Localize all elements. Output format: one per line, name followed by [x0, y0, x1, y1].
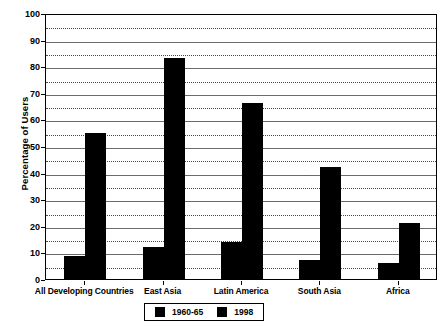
y-tick-mark	[41, 14, 45, 15]
bar	[221, 242, 242, 279]
y-tick-mark	[41, 253, 45, 254]
legend-swatch-icon	[217, 307, 227, 317]
x-axis-category-label: South Asia	[298, 286, 341, 296]
gridline-minor	[46, 55, 436, 56]
gridline-major	[46, 95, 436, 96]
gridline-minor	[46, 108, 436, 109]
x-axis-category-label: Latin America	[214, 286, 269, 296]
legend-entry: 1998	[217, 307, 253, 317]
legend-label: 1960-65	[172, 307, 203, 317]
y-tick-label: 20	[0, 222, 40, 232]
bar	[143, 247, 164, 279]
scan-artifact: .	[305, 167, 309, 171]
y-tick-mark	[41, 94, 45, 95]
bar	[378, 263, 399, 279]
y-tick-mark	[41, 120, 45, 121]
x-axis-category-label: Africa	[386, 286, 410, 296]
y-tick-label: 70	[0, 89, 40, 99]
y-tick-mark	[41, 41, 45, 42]
gridline-major	[46, 42, 436, 43]
legend-swatch-icon	[155, 307, 165, 317]
x-axis-category-label: All Developing Countries	[35, 286, 134, 296]
y-tick-mark	[41, 200, 45, 201]
y-tick-label: 10	[0, 248, 40, 258]
x-axis: All Developing CountriesEast AsiaLatin A…	[45, 281, 437, 299]
plot-area	[45, 14, 437, 280]
y-tick-mark	[41, 227, 45, 228]
gridline-minor	[46, 28, 436, 29]
gridline-minor	[46, 82, 436, 83]
bar	[242, 103, 263, 279]
y-tick-label: 100	[0, 9, 40, 19]
y-tick-mark	[41, 147, 45, 148]
y-tick-label: 40	[0, 169, 40, 179]
x-tick-mark	[319, 281, 320, 285]
bar	[164, 58, 185, 279]
y-tick-label: 30	[0, 195, 40, 205]
gridline-major	[46, 121, 436, 122]
y-tick-label: 50	[0, 142, 40, 152]
x-tick-mark	[163, 281, 164, 285]
bar	[64, 256, 85, 279]
legend-label: 1998	[234, 307, 253, 317]
y-tick-label: 90	[0, 36, 40, 46]
x-tick-mark	[84, 281, 85, 285]
bar	[299, 260, 320, 279]
y-tick-label: 0	[0, 275, 40, 285]
legend-entry: 1960-65	[155, 307, 203, 317]
chart-legend: 1960-651998	[144, 303, 264, 321]
y-tick-mark	[41, 174, 45, 175]
bar	[85, 133, 106, 279]
bar	[320, 167, 341, 279]
gridline-major	[46, 68, 436, 69]
bar-chart: Percentage of Users 01020304050607080901…	[0, 0, 443, 327]
x-tick-mark	[241, 281, 242, 285]
y-tick-label: 60	[0, 115, 40, 125]
y-tick-mark	[41, 67, 45, 68]
x-axis-category-label: East Asia	[144, 286, 181, 296]
x-tick-mark	[398, 281, 399, 285]
y-tick-label: 80	[0, 62, 40, 72]
bar	[399, 223, 420, 279]
